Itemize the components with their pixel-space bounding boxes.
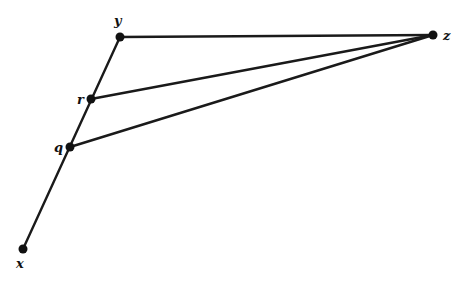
node-y [116,33,125,42]
edges-group [23,35,433,249]
node-label-y: y [113,13,123,28]
labels-group: yrqxz [15,13,451,271]
edge-y-z [120,35,433,37]
node-z [429,31,438,40]
node-label-r: r [77,92,85,107]
edge-q-z [70,35,433,147]
node-q [66,143,75,152]
node-x [19,245,28,254]
node-label-z: z [442,28,451,43]
node-r [87,95,96,104]
node-label-q: q [54,140,63,155]
node-label-x: x [15,256,24,271]
nodes-group [19,31,438,254]
edge-r-z [91,35,433,99]
diagram-canvas: yrqxz [0,0,464,281]
